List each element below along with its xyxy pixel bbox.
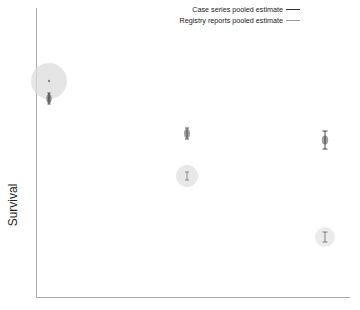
survival-chart: Case series pooled estimate Registry rep… xyxy=(0,0,360,310)
legend-label-registry: Registry reports pooled estimate xyxy=(180,16,283,25)
legend-label-case-series: Case series pooled estimate xyxy=(192,5,283,14)
series-case xyxy=(46,93,328,149)
series-registry xyxy=(31,63,335,247)
registry-point-1 xyxy=(48,80,50,82)
y-axis-label: Survival xyxy=(6,184,20,227)
legend: Case series pooled estimate Registry rep… xyxy=(180,5,300,25)
